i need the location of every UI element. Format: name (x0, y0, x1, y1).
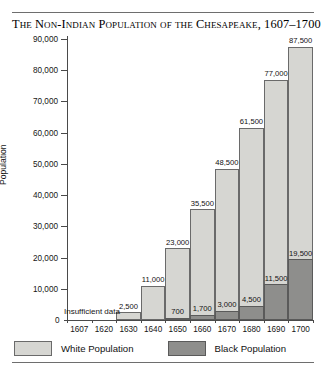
bar-group-1700[interactable]: 87,50019,5001700 (288, 39, 313, 320)
x-axis-tick (215, 320, 216, 323)
chart-legend: White PopulationBlack Population (14, 341, 286, 356)
bar-white-1670[interactable] (215, 169, 240, 320)
x-tick-label-1690: 1690 (267, 325, 285, 334)
y-tick-label-70000: 70,000 (33, 97, 58, 106)
bar-group-1640[interactable]: 11,0001640 (141, 39, 166, 320)
bar-label-black-1650: 700 (171, 308, 184, 316)
bar-label-black-1660: 1,700 (193, 305, 212, 313)
bar-black-1650[interactable] (165, 318, 190, 320)
figure-rule-bottom (12, 362, 314, 363)
bar-label-white-1680: 61,500 (240, 118, 263, 126)
x-axis-tick (67, 320, 68, 323)
y-tick-label-60000: 60,000 (33, 128, 58, 137)
x-axis-tick (116, 320, 117, 323)
bar-label-white-1670: 48,500 (215, 159, 238, 167)
bar-label-white-1700: 87,500 (289, 37, 312, 45)
bar-label-white-1690: 77,000 (264, 70, 287, 78)
bar-group-1680[interactable]: 61,5004,5001680 (239, 39, 264, 320)
plot-area: 10,00020,00030,00040,00050,00060,00070,0… (67, 39, 313, 320)
y-axis-title: Population (0, 144, 8, 185)
bar-group-1650[interactable]: 23,0007001650 (165, 39, 190, 320)
x-tick-label-1630: 1630 (119, 325, 137, 334)
x-axis-tick (313, 320, 314, 323)
x-axis-tick (190, 320, 191, 323)
x-axis-tick (165, 320, 166, 323)
bar-label-black-1690: 11,500 (265, 275, 288, 283)
bar-white-1680[interactable] (239, 128, 264, 320)
bar-label-black-1680: 4,500 (242, 296, 261, 304)
chart-figure: The Non-Indian Population of the Chesape… (0, 0, 324, 380)
bar-black-1690[interactable] (264, 284, 289, 320)
bar-black-1700[interactable] (288, 259, 313, 320)
bar-group-1620[interactable]: 1620 (92, 39, 117, 320)
bar-group-1630[interactable]: 2,5001630 (116, 39, 141, 320)
bar-label-white-1660: 35,500 (191, 200, 214, 208)
x-axis-tick (239, 320, 240, 323)
bar-label-black-1670: 3,000 (217, 301, 236, 309)
x-tick-label-1640: 1640 (144, 325, 162, 334)
white-swatch (14, 341, 52, 356)
x-tick-label-1660: 1660 (193, 325, 211, 334)
x-tick-label-1700: 1700 (292, 325, 310, 334)
title-rule-top (12, 12, 314, 13)
y-tick-label-40000: 40,000 (33, 191, 58, 200)
x-tick-label-1607: 1607 (70, 325, 88, 334)
y-tick-label-80000: 80,000 (33, 66, 58, 75)
bar-group-1670[interactable]: 48,5003,0001670 (215, 39, 240, 320)
y-tick-label-90000: 90,000 (33, 35, 58, 44)
y-tick-label-0: 0 (55, 316, 60, 325)
bar-black-1670[interactable] (215, 311, 240, 320)
y-tick-label-10000: 10,000 (33, 284, 58, 293)
bar-black-1660[interactable] (190, 315, 215, 320)
x-axis-tick (92, 320, 93, 323)
y-tick-label-30000: 30,000 (33, 222, 58, 231)
bar-label-white-1650: 23,000 (166, 239, 189, 247)
x-axis-tick (288, 320, 289, 323)
bar-group-1660[interactable]: 35,5001,7001660 (190, 39, 215, 320)
x-axis-tick (141, 320, 142, 323)
insufficient-data-annotation: Insufficient data (64, 307, 120, 316)
legend-label: White Population (61, 343, 134, 354)
x-tick-label-1620: 1620 (95, 325, 113, 334)
x-axis-line (64, 320, 314, 321)
x-tick-label-1670: 1670 (218, 325, 236, 334)
x-tick-label-1680: 1680 (242, 325, 260, 334)
bar-white-1640[interactable] (141, 286, 166, 320)
legend-item-black[interactable]: Black Population (168, 341, 286, 356)
bar-black-1680[interactable] (239, 306, 264, 320)
legend-item-white[interactable]: White Population (14, 341, 134, 356)
y-tick-label-50000: 50,000 (33, 159, 58, 168)
x-axis-tick (264, 320, 265, 323)
legend-label: Black Population (215, 343, 286, 354)
black-swatch (168, 341, 206, 356)
bar-label-black-1700: 19,500 (289, 250, 312, 258)
chart-title: The Non-Indian Population of the Chesape… (12, 17, 316, 32)
y-tick-label-20000: 20,000 (33, 253, 58, 262)
x-tick-label-1650: 1650 (169, 325, 187, 334)
bar-group-1607[interactable]: 1607 (67, 39, 92, 320)
bar-group-1690[interactable]: 77,00011,5001690 (264, 39, 289, 320)
bar-label-white-1630: 2,500 (119, 303, 138, 311)
bar-label-white-1640: 11,000 (142, 276, 165, 284)
